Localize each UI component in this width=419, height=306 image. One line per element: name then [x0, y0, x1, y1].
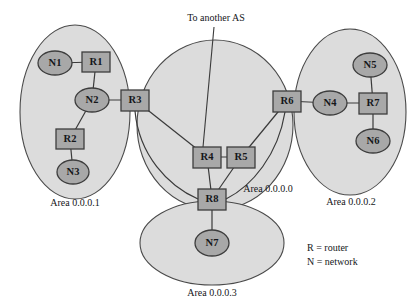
node-label-n1: N1	[49, 57, 62, 68]
ospf-area-diagram: To another AS N1 R1 N2 R2 N3	[0, 0, 419, 306]
node-label-n4: N4	[324, 97, 338, 108]
area-label-area-0-0-0-3: Area 0.0.0.3	[187, 287, 236, 298]
node-n4[interactable]: N4	[313, 91, 347, 115]
node-label-r3: R3	[129, 94, 142, 105]
legend-entry-router: R = router	[307, 242, 349, 253]
node-label-r1: R1	[90, 56, 103, 67]
node-r5[interactable]: R5	[227, 147, 255, 168]
node-label-r2: R2	[64, 133, 77, 144]
node-r8[interactable]: R8	[198, 189, 226, 210]
node-label-r7: R7	[367, 97, 380, 108]
legend-entry-network: N = network	[307, 256, 358, 267]
node-n5[interactable]: N5	[353, 53, 387, 77]
diagram-canvas: To another AS N1 R1 N2 R2 N3	[0, 0, 419, 306]
node-n7[interactable]: N7	[195, 230, 229, 256]
area-label-area-0-0-0-0: Area 0.0.0.0	[243, 183, 292, 194]
node-r4[interactable]: R4	[193, 147, 221, 168]
node-label-n7: N7	[206, 237, 219, 248]
node-label-n6: N6	[367, 135, 380, 146]
node-label-r4: R4	[201, 151, 215, 162]
node-label-r8: R8	[206, 193, 219, 204]
node-r7[interactable]: R7	[359, 93, 387, 114]
legend: R = router N = network	[307, 242, 358, 267]
node-n3[interactable]: N3	[57, 160, 89, 184]
node-n2[interactable]: N2	[75, 88, 109, 112]
node-label-r5: R5	[235, 151, 248, 162]
area-shape-area-0-0-0-2	[294, 29, 406, 195]
node-label-n2: N2	[86, 94, 99, 105]
node-r2[interactable]: R2	[56, 129, 84, 149]
node-r1[interactable]: R1	[82, 52, 110, 72]
area-label-area-0-0-0-1: Area 0.0.0.1	[50, 197, 99, 208]
node-label-n3: N3	[67, 166, 80, 177]
node-r6[interactable]: R6	[273, 91, 301, 112]
node-r3[interactable]: R3	[121, 90, 149, 111]
node-n6[interactable]: N6	[356, 129, 390, 153]
node-label-r6: R6	[281, 95, 294, 106]
node-label-n5: N5	[364, 59, 377, 70]
area-label-area-0-0-0-2: Area 0.0.0.2	[326, 196, 375, 207]
to-another-as-label: To another AS	[187, 12, 245, 23]
node-n1[interactable]: N1	[38, 51, 72, 75]
